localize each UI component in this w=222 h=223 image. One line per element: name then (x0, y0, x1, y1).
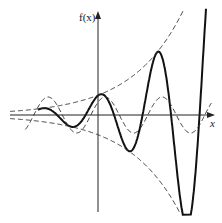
x-axis-label: x (209, 117, 215, 129)
y-axis-label: f(x) (79, 11, 96, 24)
chart: f(x) x (0, 0, 222, 223)
upper-envelope-curve (10, 9, 184, 112)
lower-envelope-curve (10, 119, 181, 215)
function-curve (38, 9, 206, 215)
y-axis-arrow-icon (95, 11, 101, 19)
